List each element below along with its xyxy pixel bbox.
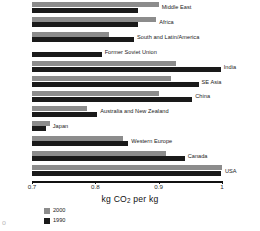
x-axis-tick-label: 0.8 [91, 184, 100, 190]
plot-area: Middle EastAfricaSouth and Latin/America… [32, 2, 222, 182]
category-label: Japan [53, 124, 69, 130]
x-axis-title-tail: per kg [131, 194, 159, 204]
category-label: South and Latin/America [137, 35, 199, 41]
bar-1990 [32, 126, 46, 131]
bar-1990 [32, 52, 102, 57]
legend-swatch-2000 [44, 208, 50, 214]
category-label: Australia and New Zealand [100, 109, 168, 115]
bar-1990 [32, 8, 138, 13]
x-axis-title: kg CO2 per kg [0, 194, 260, 204]
bar-2000 [32, 151, 166, 156]
category-label: USA [225, 169, 237, 175]
chart-legend: 2000 1990 [44, 207, 65, 227]
bar-2000 [32, 61, 176, 66]
category-label: Middle East [162, 5, 192, 11]
bar-1990 [32, 97, 192, 102]
category-label: Former Soviet Union [105, 50, 157, 56]
bar-chart: Middle EastAfricaSouth and Latin/America… [0, 0, 260, 231]
x-axis-tick-label: 1 [220, 184, 223, 190]
bar-2000 [32, 121, 50, 126]
bar-1990 [32, 67, 221, 72]
bar-2000 [32, 106, 87, 111]
x-axis-title-subscript: 2 [127, 197, 131, 204]
bar-1990 [32, 37, 134, 42]
bar-2000 [32, 32, 109, 37]
category-label: Africa [159, 20, 174, 26]
category-label: India [224, 65, 236, 71]
bar-1990 [32, 141, 128, 146]
x-axis-line [32, 181, 223, 183]
x-axis-tick-label: 0.7 [28, 184, 37, 190]
bar-1990 [32, 22, 138, 27]
bar-1990 [32, 156, 185, 161]
legend-swatch-1990 [44, 218, 50, 224]
x-axis-title-main: kg CO [102, 194, 127, 204]
legend-label-2000: 2000 [53, 208, 65, 214]
bar-2000 [32, 165, 222, 170]
category-label: SE Asia [202, 80, 222, 86]
scan-artifact: o [2, 219, 12, 227]
legend-item-2000: 2000 [44, 207, 65, 215]
legend-item-1990: 1990 [44, 217, 65, 225]
bar-1990 [32, 171, 221, 176]
x-axis-tick-label: 0.9 [154, 184, 163, 190]
bar-2000 [32, 76, 171, 81]
category-label: Western Europe [131, 139, 172, 145]
legend-label-1990: 1990 [53, 218, 65, 224]
bar-1990 [32, 82, 199, 87]
category-label: China [195, 94, 210, 100]
bar-2000 [32, 17, 156, 22]
bar-2000 [32, 91, 159, 96]
bar-2000 [32, 136, 123, 141]
category-label: Canada [188, 154, 208, 160]
bar-2000 [32, 2, 159, 7]
bar-1990 [32, 112, 97, 117]
